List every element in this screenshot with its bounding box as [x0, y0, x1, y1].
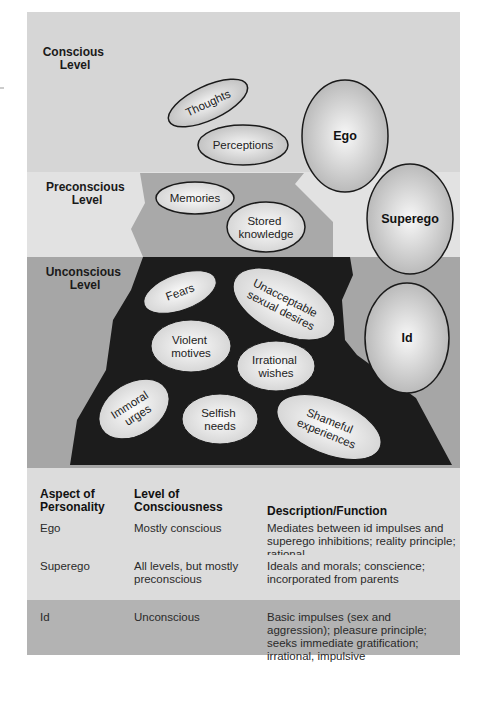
header-level: Level of Consciousness [134, 488, 259, 514]
svg-text:Violent motives: Violent motives [171, 334, 211, 359]
table-row-ego-aspect: Ego [40, 522, 135, 535]
table-row-superego-aspect: Superego [40, 560, 135, 573]
svg-text:Memories: Memories [170, 192, 221, 204]
header-description: Description/Function [267, 505, 457, 518]
svg-text:Selfish needs: Selfish needs [201, 407, 239, 432]
header-aspect: Aspect of Personality [40, 488, 135, 514]
personality-aspects-table: Aspect of Personality Level of Conscious… [27, 468, 460, 655]
id-ellipse: Id [365, 283, 449, 393]
stored-knowledge-bubble: Stored knowledge [227, 202, 305, 252]
table-header-and-ego-row: Aspect of Personality Level of Conscious… [27, 468, 460, 555]
consciousness-levels-diagram: Conscious Level Preconscious Level Uncon… [0, 0, 484, 470]
svg-text:Irrational wishes: Irrational wishes [252, 354, 300, 379]
selfish-needs-bubble: Selfish needs [182, 394, 258, 444]
superego-ellipse: Superego [367, 164, 453, 274]
svg-text:Superego: Superego [381, 212, 439, 226]
svg-text:Perceptions: Perceptions [213, 139, 274, 151]
table-row-id-aspect: Id [40, 611, 135, 624]
ego-ellipse: Ego [302, 80, 388, 192]
memories-bubble: Memories [156, 182, 234, 214]
svg-text:Ego: Ego [333, 129, 357, 143]
svg-text:Id: Id [401, 331, 412, 345]
table-row-ego-level: Mostly conscious [134, 522, 259, 535]
table-row-id-description: Basic impulses (sex and aggression); ple… [267, 611, 432, 663]
table-row-id: Id Unconscious Basic impulses (sex and a… [27, 600, 460, 655]
irrational-wishes-bubble: Irrational wishes [237, 341, 315, 391]
violent-motives-bubble: Violent motives [151, 320, 231, 372]
perceptions-bubble: Perceptions [198, 125, 288, 165]
table-row-superego-level: All levels, but mostly preconscious [134, 560, 252, 586]
table-row-id-level: Unconscious [134, 611, 259, 624]
table-row-superego-description: Ideals and morals; conscience; incorpora… [267, 560, 437, 586]
table-row-superego: Superego All levels, but mostly preconsc… [27, 555, 460, 600]
